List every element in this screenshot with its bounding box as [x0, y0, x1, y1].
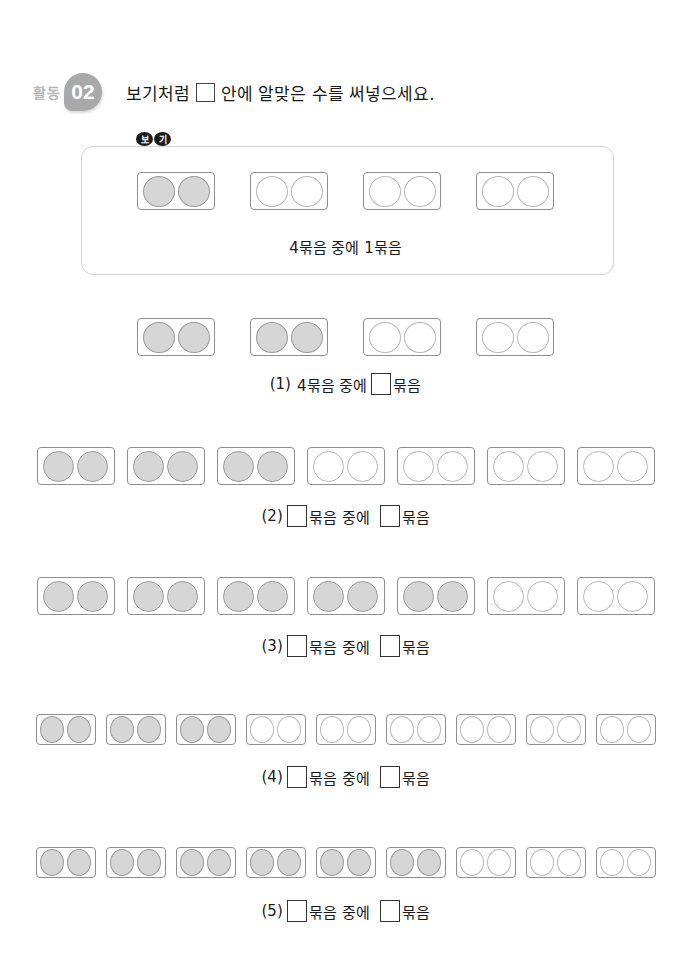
- problem-5-caption: (5) 묶음 중에 묶음: [0, 900, 691, 922]
- filled-circle-icon: [417, 849, 441, 876]
- empty-circle-icon: [583, 451, 614, 482]
- bundle-group: [137, 318, 215, 356]
- empty-circle-icon: [600, 849, 624, 876]
- instruction: 보기처럼 안에 알맞은 수를 써넣으세요.: [126, 80, 435, 105]
- filled-circle-icon: [207, 716, 231, 743]
- problem-1-groups: [0, 318, 691, 356]
- empty-circle-icon: [404, 176, 436, 207]
- bundle-group: [246, 714, 306, 745]
- filled-circle-icon: [437, 581, 468, 612]
- problem-1-caption: (1) 4묶음 중에 묶음: [0, 373, 691, 395]
- bundle-group: [476, 318, 554, 356]
- filled-circle-icon: [77, 451, 108, 482]
- example-tag-char: 기: [154, 132, 171, 146]
- filled-circle-icon: [207, 849, 231, 876]
- answer-blank-part[interactable]: [380, 505, 400, 527]
- filled-circle-icon: [256, 322, 288, 353]
- filled-circle-icon: [137, 716, 161, 743]
- example-tag-char: 보: [136, 132, 153, 146]
- filled-circle-icon: [167, 581, 198, 612]
- empty-circle-icon: [404, 322, 436, 353]
- example-caption: 4묶음 중에 1묶음: [0, 236, 691, 257]
- answer-blank-total[interactable]: [287, 900, 307, 922]
- problem-given-total: 4묶음 중에: [297, 374, 367, 395]
- filled-circle-icon: [257, 581, 288, 612]
- bundle-group: [397, 577, 475, 615]
- filled-circle-icon: [180, 716, 204, 743]
- bundle-group: [37, 577, 115, 615]
- empty-circle-icon: [600, 716, 624, 743]
- bundle-group: [127, 577, 205, 615]
- problem-5-groups: [0, 847, 691, 878]
- empty-circle-icon: [417, 716, 441, 743]
- answer-blank-part[interactable]: [380, 900, 400, 922]
- filled-circle-icon: [250, 849, 274, 876]
- empty-circle-icon: [617, 451, 648, 482]
- instruction-text-after: 안에 알맞은 수를 써넣으세요.: [221, 80, 435, 105]
- empty-circle-icon: [347, 451, 378, 482]
- empty-circle-icon: [517, 176, 549, 207]
- filled-circle-icon: [110, 716, 134, 743]
- answer-blank-part[interactable]: [371, 373, 391, 395]
- answer-blank-total[interactable]: [287, 505, 307, 527]
- empty-circle-icon: [583, 581, 614, 612]
- unit-text: 묶음: [402, 767, 430, 788]
- bundle-group: [106, 847, 166, 878]
- problem-4-groups: [0, 714, 691, 745]
- answer-blank-part[interactable]: [380, 635, 400, 657]
- filled-circle-icon: [133, 581, 164, 612]
- filled-circle-icon: [178, 176, 210, 207]
- empty-circle-icon: [291, 176, 323, 207]
- empty-circle-icon: [437, 451, 468, 482]
- empty-circle-icon: [460, 849, 484, 876]
- empty-circle-icon: [256, 176, 288, 207]
- filled-circle-icon: [40, 849, 64, 876]
- filled-circle-icon: [67, 716, 91, 743]
- example-groups: [0, 172, 691, 210]
- activity-number-badge: 02: [64, 73, 102, 111]
- text-between: 묶음 중에: [309, 636, 370, 657]
- filled-circle-icon: [347, 581, 378, 612]
- unit-text: 묶음: [402, 506, 430, 527]
- bundle-group: [217, 447, 295, 485]
- bundle-group: [386, 847, 446, 878]
- filled-circle-icon: [43, 581, 74, 612]
- problem-3-caption: (3) 묶음 중에 묶음: [0, 635, 691, 657]
- empty-circle-icon: [250, 716, 274, 743]
- bundle-group: [137, 172, 215, 210]
- empty-circle-icon: [347, 716, 371, 743]
- activity-header: 활동 02 보기처럼 안에 알맞은 수를 써넣으세요.: [33, 72, 435, 112]
- bundle-group: [456, 714, 516, 745]
- bundle-group: [386, 714, 446, 745]
- answer-blank-part[interactable]: [380, 766, 400, 788]
- bundle-group: [487, 577, 565, 615]
- empty-circle-icon: [277, 716, 301, 743]
- bundle-group: [127, 447, 205, 485]
- answer-blank-total[interactable]: [287, 635, 307, 657]
- empty-circle-icon: [557, 716, 581, 743]
- bundle-group: [316, 847, 376, 878]
- unit-text: 묶음: [402, 901, 430, 922]
- example-caption-text: 4묶음 중에 1묶음: [289, 236, 402, 257]
- filled-circle-icon: [110, 849, 134, 876]
- empty-circle-icon: [487, 716, 511, 743]
- filled-circle-icon: [223, 451, 254, 482]
- bundle-group: [307, 577, 385, 615]
- answer-box-symbol: [196, 83, 215, 102]
- answer-blank-total[interactable]: [287, 766, 307, 788]
- problem-2-caption: (2) 묶음 중에 묶음: [0, 505, 691, 527]
- filled-circle-icon: [178, 322, 210, 353]
- empty-circle-icon: [320, 716, 344, 743]
- bundle-group: [456, 847, 516, 878]
- filled-circle-icon: [77, 581, 108, 612]
- bundle-group: [577, 577, 655, 615]
- bundle-group: [596, 714, 656, 745]
- empty-circle-icon: [369, 322, 401, 353]
- example-tag: 보 기: [136, 132, 171, 146]
- empty-circle-icon: [530, 716, 554, 743]
- bundle-group: [250, 318, 328, 356]
- filled-circle-icon: [167, 451, 198, 482]
- bundle-group: [363, 318, 441, 356]
- problem-number: (3): [261, 637, 282, 655]
- filled-circle-icon: [67, 849, 91, 876]
